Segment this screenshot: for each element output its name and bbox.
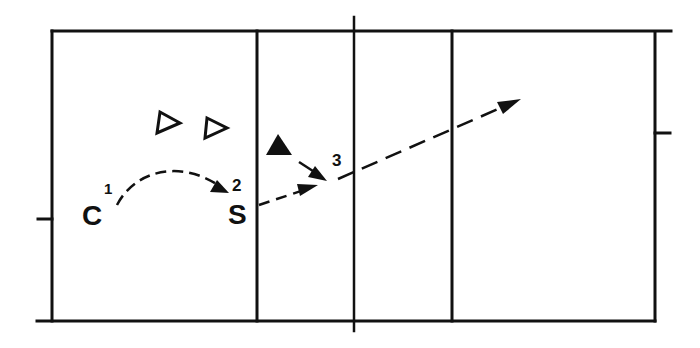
setter-label: S xyxy=(228,199,247,230)
set-path xyxy=(259,190,304,205)
court-lines xyxy=(37,17,671,331)
attack-arrowhead-icon xyxy=(497,99,521,114)
attack-step: 3 xyxy=(332,151,341,170)
attack-path xyxy=(338,106,505,179)
set-arrowhead-icon xyxy=(297,184,318,196)
players xyxy=(157,112,292,155)
paths xyxy=(117,99,521,205)
player-open-1-icon xyxy=(157,112,180,133)
pass-path xyxy=(117,171,218,205)
volleyball-court-diagram: C 1 S 2 3 xyxy=(0,0,700,348)
passer-label: C xyxy=(82,200,102,231)
setter-step: 2 xyxy=(232,176,241,195)
player-open-2-icon xyxy=(205,118,227,138)
player-attacker-icon xyxy=(266,134,292,155)
passer-step: 1 xyxy=(104,180,112,197)
